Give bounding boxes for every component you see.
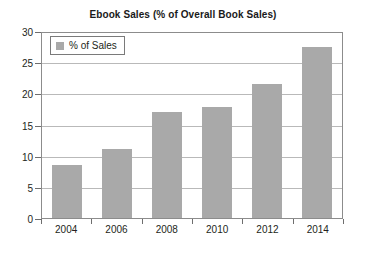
bar-slot [42, 33, 92, 218]
y-tick-label: 15 [22, 120, 33, 131]
x-tick-label: 2008 [142, 224, 192, 235]
bar-2014[interactable] [302, 47, 332, 218]
bar-2004[interactable] [52, 165, 82, 218]
y-tick-label: 10 [22, 151, 33, 162]
y-tick-label: 25 [22, 58, 33, 69]
bar-slot [292, 33, 342, 218]
legend-swatch-icon [56, 42, 64, 50]
bar-2006[interactable] [102, 149, 132, 218]
legend-label: % of Sales [69, 40, 117, 51]
bar-2008[interactable] [152, 112, 182, 218]
y-tick-label: 30 [22, 27, 33, 38]
chart-container: Ebook Sales (% of Overall Book Sales) 05… [0, 0, 366, 256]
y-tick-label: 20 [22, 89, 33, 100]
chart-title: Ebook Sales (% of Overall Book Sales) [0, 9, 366, 20]
x-tick-mark [343, 219, 344, 224]
bars-layer [42, 33, 342, 218]
x-tick-label: 2004 [41, 224, 91, 235]
bar-slot [192, 33, 242, 218]
y-axis: 051015202530 [0, 32, 33, 219]
bar-2012[interactable] [252, 84, 282, 218]
y-tick-label: 5 [27, 182, 33, 193]
x-tick-label: 2012 [242, 224, 292, 235]
y-tick-label: 0 [27, 214, 33, 225]
plot-area [41, 32, 343, 219]
x-tick-label: 2014 [293, 224, 343, 235]
bar-slot [92, 33, 142, 218]
chart-legend: % of Sales [50, 36, 125, 55]
x-tick-label: 2006 [91, 224, 141, 235]
bar-slot [242, 33, 292, 218]
bar-slot [142, 33, 192, 218]
x-tick-label: 2010 [192, 224, 242, 235]
x-axis: 200420062008201020122014 [41, 224, 343, 235]
bar-2010[interactable] [202, 107, 232, 218]
